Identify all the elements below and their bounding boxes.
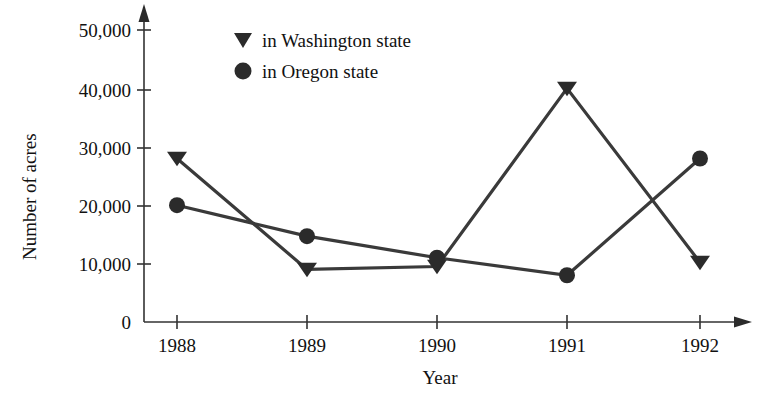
data-point-oregon-1991 bbox=[559, 267, 575, 283]
legend-label-oregon: in Oregon state bbox=[262, 61, 378, 82]
y-tick-label-50000: 50,000 bbox=[79, 20, 131, 41]
y-tick-label-0: 0 bbox=[122, 312, 132, 333]
data-point-oregon-1989 bbox=[299, 228, 315, 244]
legend: in Washington state in Oregon state bbox=[234, 30, 411, 82]
y-tick-label-30000: 30,000 bbox=[79, 138, 131, 159]
data-point-oregon-1988 bbox=[169, 197, 185, 213]
y-axis-title: Number of acres bbox=[19, 133, 40, 260]
y-axis-arrowhead bbox=[139, 4, 150, 22]
data-point-washington-1992 bbox=[690, 256, 710, 271]
y-axis bbox=[137, 4, 151, 322]
x-tick-labels: 1988 1989 1990 1991 1992 bbox=[158, 335, 719, 356]
data-point-oregon-1992 bbox=[692, 150, 708, 166]
data-point-washington-1991 bbox=[557, 82, 577, 97]
data-point-oregon-1990 bbox=[429, 250, 445, 266]
y-tick-label-10000: 10,000 bbox=[79, 254, 131, 275]
x-tick-label-1991: 1991 bbox=[548, 335, 586, 356]
x-tick-label-1989: 1989 bbox=[288, 335, 326, 356]
x-tick-label-1988: 1988 bbox=[158, 335, 196, 356]
line-chart: 50,000 40,000 30,000 20,000 10,000 0 Num… bbox=[0, 0, 783, 395]
triangle-down-icon bbox=[234, 33, 252, 48]
x-tick-label-1992: 1992 bbox=[681, 335, 719, 356]
series-layer bbox=[167, 82, 710, 284]
legend-item-washington[interactable]: in Washington state bbox=[234, 30, 411, 51]
y-tick-label-20000: 20,000 bbox=[79, 196, 131, 217]
legend-item-oregon[interactable]: in Oregon state bbox=[235, 61, 379, 82]
y-tick-label-40000: 40,000 bbox=[79, 80, 131, 101]
x-axis-title: Year bbox=[422, 367, 458, 388]
x-axis bbox=[144, 315, 752, 329]
x-tick-label-1990: 1990 bbox=[418, 335, 456, 356]
circle-icon bbox=[235, 63, 252, 80]
y-tick-labels: 50,000 40,000 30,000 20,000 10,000 0 bbox=[79, 20, 131, 333]
chart-canvas: 50,000 40,000 30,000 20,000 10,000 0 Num… bbox=[0, 0, 783, 395]
x-axis-arrowhead bbox=[734, 317, 752, 328]
series-line-washington bbox=[177, 88, 700, 269]
legend-label-washington: in Washington state bbox=[262, 30, 411, 51]
